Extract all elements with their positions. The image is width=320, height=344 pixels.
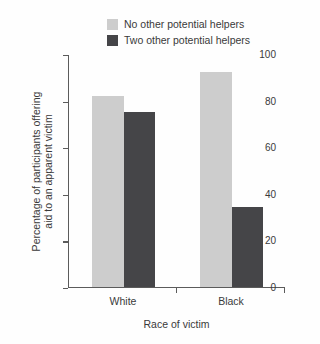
x-axis-title: Race of victim [68, 318, 285, 330]
y-axis-line [68, 55, 69, 288]
bar-black-two-other-helpers [232, 207, 263, 286]
x-axis-tick [284, 288, 285, 293]
bar-black-no-other-helpers [200, 72, 232, 286]
legend-item-label: Two other potential helpers [124, 35, 250, 46]
bar-white-no-other-helpers [92, 96, 124, 287]
y-axis-title-line1: Percentage of participants offering [30, 92, 42, 252]
bar-white-two-other-helpers [124, 112, 155, 287]
legend-swatch-icon [107, 35, 118, 46]
x-axis-tick-label-black: Black [218, 296, 244, 307]
x-axis-tick [176, 288, 177, 293]
y-axis-tick [63, 102, 68, 103]
x-axis-tick-label-white: White [110, 296, 137, 307]
y-axis-tick-label: 60 [265, 143, 276, 153]
y-axis-tick-label: 0 [270, 283, 276, 293]
bar-chart-figure: No other potential helpers Two other pot… [0, 0, 320, 344]
legend-item-two-other-helpers: Two other potential helpers [107, 34, 250, 47]
y-axis-tick-label: 100 [259, 50, 276, 60]
legend-item-no-other-helpers: No other potential helpers [107, 18, 250, 31]
legend-swatch-icon [107, 19, 118, 30]
y-axis-title-text: Percentage of participants offering aid … [30, 92, 55, 252]
y-axis-tick-label: 40 [265, 190, 276, 200]
y-axis-tick [63, 195, 68, 196]
plot-area: 100 80 60 40 20 0 White Black [68, 55, 285, 288]
y-axis-tick [63, 288, 68, 289]
y-axis-title-line2: aid to an apparent victim [42, 114, 54, 228]
legend-item-label: No other potential helpers [124, 19, 244, 30]
y-axis-tick [63, 241, 68, 242]
y-axis-tick [63, 55, 68, 56]
chart-legend: No other potential helpers Two other pot… [107, 18, 250, 47]
y-axis-tick [63, 148, 68, 149]
y-axis-tick-label: 20 [265, 236, 276, 246]
y-axis-title: Percentage of participants offering aid … [22, 55, 62, 288]
y-axis-tick-label: 80 [265, 97, 276, 107]
